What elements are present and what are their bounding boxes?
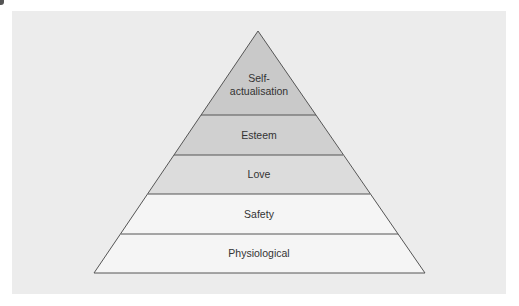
label-line: actualisation — [230, 85, 288, 98]
label-line: Self- — [230, 72, 288, 85]
level-label-self-actualisation: Self- actualisation — [230, 72, 288, 98]
maslow-pyramid — [0, 0, 519, 306]
level-label-physiological: Physiological — [228, 247, 289, 260]
level-label-esteem: Esteem — [241, 129, 277, 142]
level-label-safety: Safety — [244, 208, 274, 221]
level-label-love: Love — [248, 168, 271, 181]
